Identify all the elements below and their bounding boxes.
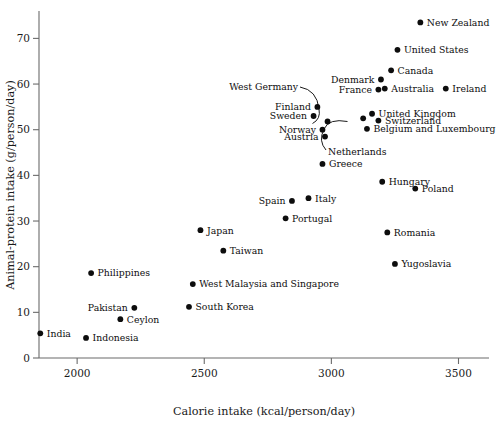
- data-point-ireland[interactable]: [443, 86, 449, 92]
- point-label-india: India: [47, 328, 72, 339]
- data-point-spain[interactable]: [289, 198, 295, 204]
- point-label-spain: Spain: [259, 195, 286, 206]
- point-label-ireland: Ireland: [452, 83, 486, 94]
- point-label-greece: Greece: [329, 158, 363, 169]
- x-axis-ticks: 2000250030003500: [64, 358, 472, 379]
- data-point-france[interactable]: [376, 87, 382, 93]
- data-point-ceylon[interactable]: [117, 316, 123, 322]
- scatter-plot-figure: 010203040506070 2000250030003500 New Zea…: [0, 0, 500, 423]
- x-tick-label: 2500: [191, 367, 218, 379]
- data-point-canada[interactable]: [388, 67, 394, 73]
- data-point-sweden[interactable]: [311, 113, 317, 119]
- y-axis-title: Animal-protein intake (g/person/day): [4, 80, 17, 291]
- data-point-new-zealand[interactable]: [417, 20, 423, 26]
- data-point-belgium-and-luxembourg[interactable]: [364, 126, 370, 132]
- data-point-finland[interactable]: [314, 104, 320, 110]
- data-point-australia[interactable]: [382, 86, 388, 92]
- point-labels: New ZealandUnited StatesCanadaDenmarkAus…: [47, 17, 496, 343]
- y-tick-label: 60: [17, 78, 30, 90]
- data-point-hungary[interactable]: [379, 179, 385, 185]
- point-label-portugal: Portugal: [292, 213, 332, 224]
- point-label-canada: Canada: [398, 65, 434, 76]
- point-label-austria: Austria: [283, 131, 319, 142]
- data-point-japan[interactable]: [198, 227, 204, 233]
- y-tick-label: 20: [17, 260, 30, 272]
- data-point-united-states[interactable]: [395, 47, 401, 53]
- x-tick-label: 2000: [64, 367, 91, 379]
- point-label-australia: Australia: [390, 83, 434, 94]
- data-point-indonesia[interactable]: [83, 335, 89, 341]
- y-tick-label: 70: [17, 32, 30, 44]
- point-label-pakistan: Pakistan: [88, 302, 128, 313]
- x-tick-label: 3000: [318, 367, 345, 379]
- point-label-indonesia: Indonesia: [93, 332, 139, 343]
- data-points: [37, 20, 448, 341]
- point-label-france: France: [339, 84, 373, 95]
- plot-canvas: 010203040506070 2000250030003500 New Zea…: [0, 0, 500, 423]
- point-label-sweden: Sweden: [270, 110, 307, 121]
- point-label-belgium-and-luxembourg: Belgium and Luxembourg: [373, 123, 495, 134]
- x-axis-title: Calorie intake (kcal/person/day): [173, 405, 355, 418]
- data-point-philippines[interactable]: [88, 270, 94, 276]
- data-point-united-kingdom[interactable]: [369, 111, 375, 117]
- data-point-netherlands[interactable]: [360, 115, 366, 121]
- data-point-yugoslavia[interactable]: [392, 261, 398, 267]
- data-point-italy[interactable]: [306, 195, 312, 201]
- data-point-pakistan[interactable]: [131, 305, 137, 311]
- point-label-netherlands: Netherlands: [328, 146, 387, 157]
- point-label-taiwan: Taiwan: [230, 245, 263, 256]
- point-label-new-zealand: New Zealand: [427, 17, 490, 28]
- point-label-japan: Japan: [206, 225, 234, 236]
- data-point-greece[interactable]: [320, 161, 326, 167]
- data-point-taiwan[interactable]: [220, 248, 226, 254]
- y-axis-ticks: 010203040506070: [17, 32, 39, 364]
- x-tick-label: 3500: [445, 367, 472, 379]
- data-point-portugal[interactable]: [283, 215, 289, 221]
- data-point-south-korea[interactable]: [186, 304, 192, 310]
- y-tick-label: 50: [17, 123, 30, 135]
- point-label-south-korea: South Korea: [196, 301, 255, 312]
- point-label-italy: Italy: [315, 193, 337, 204]
- data-point-west-germany[interactable]: [325, 119, 331, 125]
- data-point-norway[interactable]: [320, 127, 326, 133]
- point-label-united-states: United States: [404, 44, 469, 55]
- data-point-austria[interactable]: [322, 134, 328, 140]
- data-point-west-malaysia-and-singapore[interactable]: [190, 281, 196, 287]
- data-point-romania[interactable]: [384, 230, 390, 236]
- y-tick-label: 40: [17, 169, 30, 181]
- y-tick-label: 30: [17, 215, 30, 227]
- data-point-india[interactable]: [37, 330, 43, 336]
- y-tick-label: 10: [17, 306, 30, 318]
- point-label-ceylon: Ceylon: [127, 314, 159, 325]
- point-label-yugoslavia: Yugoslavia: [400, 258, 451, 269]
- point-label-philippines: Philippines: [98, 267, 151, 278]
- point-label-poland: Poland: [422, 183, 454, 194]
- point-label-west-germany: West Germany: [229, 81, 298, 92]
- y-tick-label: 0: [23, 352, 30, 364]
- point-label-west-malaysia-and-singapore: West Malaysia and Singapore: [199, 278, 339, 289]
- data-point-denmark[interactable]: [378, 77, 384, 83]
- point-label-romania: Romania: [394, 227, 436, 238]
